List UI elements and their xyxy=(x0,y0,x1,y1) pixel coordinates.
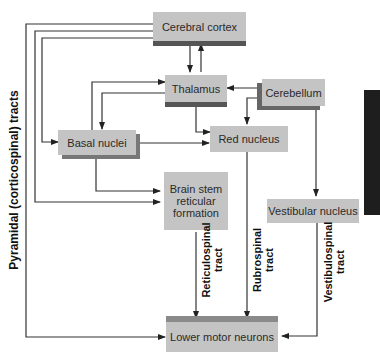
node-label-line: reticular xyxy=(176,195,215,207)
label-rubrospinal-tract: Rubrospinal tract xyxy=(251,215,275,305)
node-cerebellum: Cerebellum xyxy=(262,79,325,106)
node-label: Red nucleus xyxy=(218,133,279,145)
node-thalamus: Thalamus xyxy=(165,75,227,102)
dark-edge-bar xyxy=(364,90,380,215)
node-basal-nuclei: Basal nuclei xyxy=(58,130,136,155)
node-cerebral-cortex: Cerebral cortex xyxy=(153,12,246,41)
label-pyramidal-tracts: Pyramidal (corticospinal) tracts xyxy=(8,60,20,300)
label-reticulospinal-tract: Reticulospinal tract xyxy=(200,215,224,305)
node-label: Thalamus xyxy=(172,83,220,95)
node-label: Cerebellum xyxy=(265,87,321,99)
node-label-line: Brain stem xyxy=(170,183,223,195)
node-red-nucleus: Red nucleus xyxy=(210,126,288,152)
node-label: Basal nuclei xyxy=(67,137,126,149)
label-vestibulospinal-tract: Vestibulospinal tract xyxy=(322,212,346,312)
node-label: Cerebral cortex xyxy=(162,21,237,33)
node-lower-motor-neurons: Lower motor neurons xyxy=(166,322,278,352)
node-label: Lower motor neurons xyxy=(170,331,274,343)
